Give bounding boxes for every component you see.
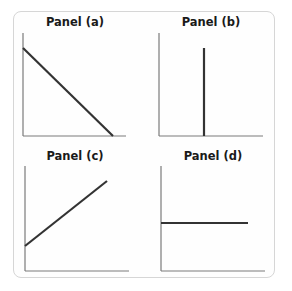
panel-d-title: Panel (d) — [184, 149, 243, 163]
panel-b-title: Panel (b) — [182, 15, 241, 29]
panel-a-downward-line — [23, 48, 113, 136]
panel-c-title: Panel (c) — [46, 149, 103, 163]
panels-figure: Panel (a) Panel (b) Panel (c) Panel (d) — [0, 0, 292, 291]
panel-a-title: Panel (a) — [46, 15, 104, 29]
panel-c-upward-line — [25, 181, 107, 246]
panel-b: Panel (b) — [159, 15, 263, 136]
panel-d: Panel (d) — [161, 149, 265, 271]
panel-c: Panel (c) — [25, 149, 129, 271]
panel-a: Panel (a) — [23, 15, 126, 136]
